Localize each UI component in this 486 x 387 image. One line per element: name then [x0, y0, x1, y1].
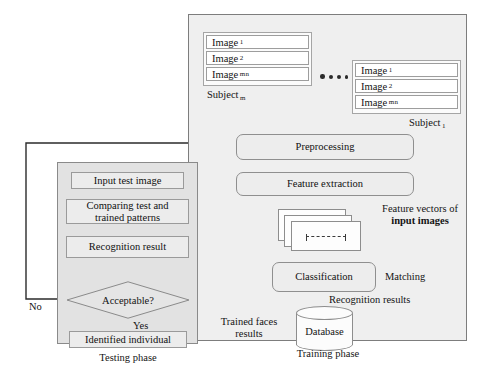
image-label: Image — [212, 53, 238, 64]
image-label: Image — [212, 69, 238, 80]
matching-label: Matching — [385, 271, 425, 283]
recognition-result-node: Recognition result — [66, 236, 189, 258]
subject-m-image-row: Image2 — [206, 51, 309, 65]
subject-1-caption: Subject1 — [409, 117, 446, 130]
classification-node: Classification — [272, 262, 376, 292]
image-label: Image — [361, 81, 387, 92]
subject-m-image-group: Image1 Image2 Imagemn — [203, 32, 312, 86]
subject-m-image-row: Imagemn — [206, 67, 309, 81]
image-index: 1 — [387, 66, 392, 74]
acceptable-decision-node: Acceptable? — [66, 281, 190, 319]
testing-phase-caption: Testing phase — [58, 352, 198, 363]
image-index: 1 — [238, 38, 243, 46]
image-index: 2 — [387, 82, 392, 90]
input-test-image-node: Input test image — [71, 172, 184, 189]
database-cylinder: Database — [296, 306, 353, 352]
subjects-ellipsis-dots — [320, 74, 348, 79]
image-label: Image — [212, 37, 238, 48]
subject-m-image-row: Image1 — [206, 35, 309, 49]
diagram-canvas: Image1 Image2 Imagemn Subjectm Image1 Im… — [0, 0, 486, 387]
subject-1-image-row: Image2 — [355, 79, 458, 93]
feature-vectors-label: Feature vectors of input images — [372, 203, 468, 227]
feature-vector-card-front — [291, 221, 361, 251]
branch-no-label: No — [29, 301, 42, 313]
identified-individual-node: Identified individual — [69, 331, 187, 348]
preprocessing-node: Preprocessing — [236, 134, 414, 160]
feature-extraction-node: Feature extraction — [236, 172, 414, 196]
trained-faces-results-label: Trained faces results — [203, 316, 295, 340]
image-index: mn — [238, 70, 249, 78]
image-label: Image — [361, 65, 387, 76]
image-index: mn — [387, 98, 398, 106]
feature-vectors-stack — [278, 209, 372, 253]
image-index: 2 — [238, 54, 243, 62]
subject-1-image-row: Image1 — [355, 63, 458, 77]
recognition-results-label: Recognition results — [329, 294, 410, 306]
subject-m-caption: Subjectm — [207, 89, 246, 102]
database-label: Database — [296, 313, 353, 351]
subject-1-image-row: Imagemn — [355, 95, 458, 109]
training-phase-caption: Training phase — [248, 348, 408, 359]
feature-vector-dashes — [306, 236, 345, 237]
subject-1-image-group: Image1 Image2 Imagemn — [352, 60, 461, 114]
acceptable-label: Acceptable? — [66, 281, 190, 319]
image-label: Image — [361, 97, 387, 108]
comparing-patterns-node: Comparing test and trained patterns — [66, 199, 189, 224]
